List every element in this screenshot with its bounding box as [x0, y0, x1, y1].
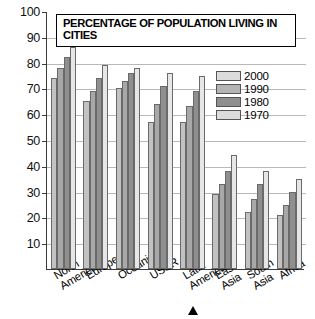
- bar[interactable]: [289, 192, 295, 269]
- y-axis-tick-label: 50: [27, 134, 40, 148]
- bar[interactable]: [193, 91, 199, 269]
- legend-item[interactable]: 1990: [216, 83, 269, 95]
- y-axis-tick: [42, 12, 47, 13]
- bar[interactable]: [277, 215, 283, 269]
- bar[interactable]: [251, 199, 257, 269]
- bar[interactable]: [160, 86, 166, 269]
- bar-group: [83, 12, 108, 269]
- y-axis-tick: [42, 218, 47, 219]
- bar[interactable]: [122, 81, 128, 269]
- bar[interactable]: [219, 184, 225, 269]
- legend-item[interactable]: 2000: [216, 70, 269, 82]
- bar[interactable]: [70, 47, 76, 269]
- y-axis-tick-label: 70: [27, 82, 40, 96]
- bar[interactable]: [154, 104, 160, 269]
- y-axis-tick: [42, 64, 47, 65]
- bar-chart: 102030405060708090100 PERCENTAGE OF POPU…: [0, 0, 315, 319]
- bar[interactable]: [231, 155, 237, 269]
- y-axis-tick-label: 30: [27, 186, 40, 200]
- y-axis-tick-label: 10: [27, 237, 40, 251]
- bar[interactable]: [257, 184, 263, 269]
- y-axis-tick-label: 80: [27, 57, 40, 71]
- legend-swatch-icon: [216, 110, 241, 120]
- legend-swatch-icon: [216, 84, 241, 94]
- y-axis-tick-label: 20: [27, 211, 40, 225]
- bar[interactable]: [212, 194, 218, 269]
- bar[interactable]: [283, 205, 289, 270]
- bar[interactable]: [167, 73, 173, 269]
- bar[interactable]: [134, 68, 140, 269]
- legend-label: 1990: [244, 83, 269, 95]
- y-axis-tick: [42, 167, 47, 168]
- y-axis-tick: [42, 115, 47, 116]
- bar[interactable]: [186, 106, 192, 269]
- bar[interactable]: [116, 88, 122, 269]
- bar[interactable]: [263, 171, 269, 269]
- bar[interactable]: [225, 171, 231, 269]
- legend-swatch-icon: [216, 97, 241, 107]
- y-axis-tick-label: 100: [20, 5, 40, 19]
- bar-group: [180, 12, 205, 269]
- legend-item[interactable]: 1980: [216, 96, 269, 108]
- bar[interactable]: [102, 65, 108, 269]
- y-axis-tick-label: 90: [27, 31, 40, 45]
- pointer-marker: [188, 306, 198, 315]
- y-axis-tick-label: 40: [27, 160, 40, 174]
- bar[interactable]: [90, 91, 96, 269]
- y-axis-tick: [42, 141, 47, 142]
- y-axis-tick: [42, 89, 47, 90]
- bar[interactable]: [245, 212, 251, 269]
- plot-area: 102030405060708090100: [46, 12, 304, 270]
- chart-title: PERCENTAGE OF POPULATION LIVING IN CITIE…: [56, 14, 296, 47]
- bar[interactable]: [180, 122, 186, 269]
- legend-label: 1980: [244, 96, 269, 108]
- bar-group: [148, 12, 173, 269]
- legend-swatch-icon: [216, 71, 241, 81]
- bar[interactable]: [57, 68, 63, 269]
- bar[interactable]: [83, 101, 89, 269]
- legend: 2000 1990 1980 1970: [216, 70, 269, 123]
- bar-group: [51, 12, 76, 269]
- y-axis-tick: [42, 38, 47, 39]
- bar[interactable]: [199, 76, 205, 270]
- legend-item[interactable]: 1970: [216, 110, 269, 122]
- bar[interactable]: [96, 78, 102, 269]
- gridline: [47, 64, 306, 65]
- legend-label: 2000: [244, 70, 269, 82]
- y-axis-tick: [42, 244, 47, 245]
- bar-group: [116, 12, 141, 269]
- y-axis-tick: [42, 193, 47, 194]
- bar[interactable]: [64, 57, 70, 269]
- bar[interactable]: [128, 73, 134, 269]
- bar[interactable]: [296, 179, 302, 269]
- y-axis-tick-label: 60: [27, 108, 40, 122]
- bar[interactable]: [51, 78, 57, 269]
- x-axis-labels: NorthAmericaEuropeOceaniaUSSRLatinAmeric…: [46, 272, 304, 319]
- bar[interactable]: [148, 122, 154, 269]
- legend-label: 1970: [244, 109, 269, 121]
